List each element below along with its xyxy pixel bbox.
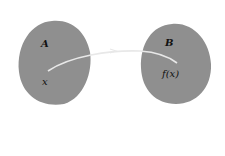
set-b-label: B: [164, 37, 173, 48]
set-a-blob: [19, 21, 91, 105]
element-fx-label: f(x): [161, 68, 179, 79]
function-diagram: A x B f(x): [0, 0, 225, 156]
set-a-label: A: [40, 38, 49, 49]
set-b-blob: [141, 24, 211, 104]
element-x-label: x: [42, 76, 48, 87]
